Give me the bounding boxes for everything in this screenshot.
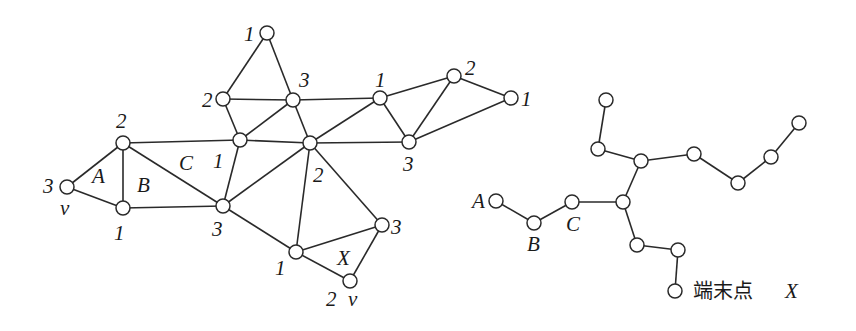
vertex-color-label: 3	[298, 68, 310, 92]
tree-vertex	[687, 147, 701, 161]
vertex-color-label: 2	[326, 287, 337, 311]
vertex-color-label: 3	[402, 152, 414, 176]
vertex-color-label: 1	[244, 22, 255, 46]
vertex-v-label: v	[348, 287, 358, 311]
vertex-color-label: 1	[275, 256, 286, 280]
graph-vertex	[116, 136, 130, 150]
graph-vertex	[216, 92, 230, 106]
graph-vertex	[375, 218, 389, 232]
face-label: A	[90, 164, 105, 188]
graph-edge	[223, 99, 293, 100]
vertex-color-label: 1	[114, 221, 125, 245]
graph-edge	[310, 98, 380, 143]
graph-vertex-labels: 3v213121321321132v	[42, 22, 532, 311]
graph-edge	[296, 143, 310, 252]
diagram-canvas: 3v213121321321132v ABCX 端末点 X ABC	[0, 0, 856, 331]
vertex-color-label: 2	[465, 56, 476, 80]
tree-vertex	[591, 142, 605, 156]
vertex-color-label: 3	[211, 217, 223, 241]
graph-edge	[380, 76, 454, 98]
graph-vertex	[402, 135, 416, 149]
vertex-color-label: 2	[313, 163, 324, 187]
graph-edge	[380, 98, 409, 142]
terminal-x-label: X	[784, 279, 799, 303]
graph-vertex	[504, 91, 518, 105]
graph-edge	[223, 206, 296, 252]
graph-edge	[240, 100, 293, 140]
tree-nodes	[489, 93, 806, 298]
graph-edge	[293, 98, 380, 100]
tree-edge	[641, 154, 694, 161]
terminal-point-label: 端末点	[693, 279, 753, 303]
graph-vertex	[233, 133, 247, 147]
tree-vertex	[616, 195, 630, 209]
face-label: B	[137, 173, 150, 197]
tree-vertex	[489, 194, 503, 208]
graph-vertex	[343, 274, 357, 288]
graph-nodes	[60, 26, 518, 288]
tree-edge	[694, 154, 738, 183]
vertex-color-label: 3	[42, 174, 54, 198]
graph-vertex	[447, 69, 461, 83]
vertex-color-label: 3	[390, 215, 402, 239]
graph-edges	[67, 33, 511, 281]
graph-vertex	[303, 136, 317, 150]
tree-vertex	[731, 176, 745, 190]
tree-vertex	[599, 93, 613, 107]
graph-edge	[454, 76, 511, 98]
vertex-color-label: 2	[116, 109, 127, 133]
tree-vertex	[565, 195, 579, 209]
face-label: C	[179, 151, 194, 175]
tree-node-label: B	[527, 232, 540, 256]
tree-node-label: C	[566, 212, 581, 236]
graph-vertex	[116, 201, 130, 215]
graph-edge	[240, 140, 310, 143]
graph-edge	[310, 142, 409, 143]
graph-edge	[123, 140, 240, 143]
tree-vertex	[668, 284, 682, 298]
vertex-color-label: 1	[521, 87, 532, 111]
vertex-color-label: 2	[202, 88, 213, 112]
graph-vertex	[286, 93, 300, 107]
graph-vertex	[216, 199, 230, 213]
tree-vertex	[634, 154, 648, 168]
tree-node-label: A	[470, 189, 485, 213]
graph-edge	[123, 206, 223, 208]
vertex-color-label: 1	[375, 68, 386, 92]
tree-vertex	[764, 150, 778, 164]
tree-vertex	[792, 116, 806, 130]
face-label: X	[336, 246, 351, 270]
graph-vertex	[289, 245, 303, 259]
graph-edge	[67, 187, 123, 208]
vertex-v-label: v	[60, 196, 70, 220]
graph-edge	[267, 33, 293, 100]
tree-vertex	[527, 216, 541, 230]
vertex-color-label: 1	[213, 149, 224, 173]
tree-vertex	[671, 243, 685, 257]
tree-vertex	[630, 238, 644, 252]
graph-vertex	[60, 180, 74, 194]
graph-vertex	[260, 26, 274, 40]
graph-vertex	[373, 91, 387, 105]
tree-edges	[496, 100, 799, 291]
